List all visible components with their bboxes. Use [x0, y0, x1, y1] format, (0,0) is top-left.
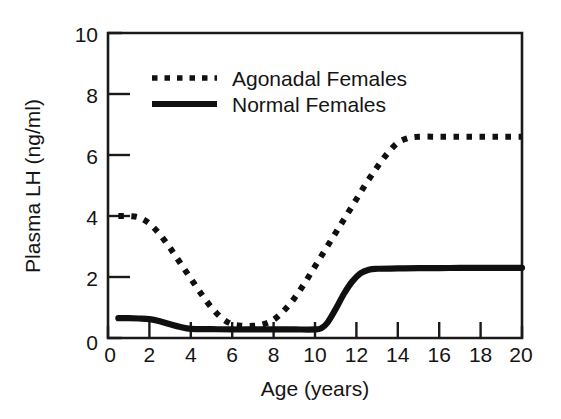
x-tick-label-0: 0 [104, 343, 116, 366]
legend-label-normal: Normal Females [232, 93, 386, 116]
x-tick-label-10: 10 [303, 343, 326, 366]
x-tick-label-16: 16 [428, 343, 451, 366]
y-tick-label-10: 10 [75, 23, 98, 46]
x-tick-label-6: 6 [226, 343, 238, 366]
y-tick-label-6: 6 [86, 145, 98, 168]
x-tick-label-14: 14 [386, 343, 410, 366]
y-tick-label-0: 0 [86, 331, 98, 354]
y-tick-label-8: 8 [86, 84, 98, 107]
x-axis-title: Age (years) [261, 377, 370, 400]
x-tick-label-18: 18 [469, 343, 492, 366]
plasma-lh-line-chart: 10 8 6 4 2 0 0 2 4 6 8 10 [0, 0, 561, 419]
x-tick-label-8: 8 [268, 343, 280, 366]
y-axis-title: Plasma LH (ng/ml) [21, 99, 44, 273]
y-tick-label-2: 2 [86, 267, 98, 290]
chart-figure: 10 8 6 4 2 0 0 2 4 6 8 10 [0, 0, 561, 419]
x-tick-label-20: 20 [509, 343, 532, 366]
x-tick-label-2: 2 [144, 343, 156, 366]
x-tick-label-12: 12 [345, 343, 368, 366]
y-tick-label-4: 4 [86, 206, 98, 229]
legend-label-agonadal: Agonadal Females [232, 67, 407, 90]
x-tick-label-4: 4 [185, 343, 197, 366]
